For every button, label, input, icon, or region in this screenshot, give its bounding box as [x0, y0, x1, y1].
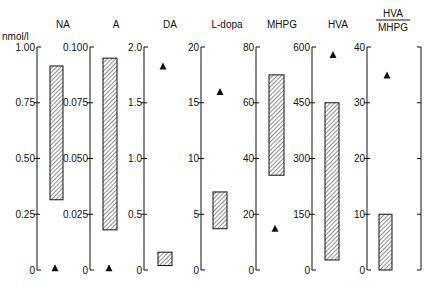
triangle-marker [272, 225, 279, 232]
panel-hva-mhpg: 010203040HVAMHPG [354, 8, 421, 276]
range-bar [103, 58, 117, 230]
panel-title: L-dopa [211, 19, 243, 30]
tick-label: 300 [293, 153, 310, 164]
tick-label: 15 [188, 97, 200, 108]
tick-label: 0.50 [16, 153, 36, 164]
tick-label: 0 [248, 265, 254, 276]
tick-label: 5 [193, 209, 199, 220]
range-bar [379, 214, 392, 270]
tick-label: 1.5 [128, 97, 142, 108]
tick-label: 450 [293, 97, 310, 108]
triangle-marker [106, 264, 113, 271]
range-bar [50, 66, 63, 200]
panel-hva: 0150300450600HVA [293, 19, 348, 276]
range-bar [325, 103, 339, 260]
panels: 00.250.500.751.00NA00.0250.0500.0750.100… [16, 8, 421, 276]
panel-title: A [113, 19, 120, 30]
panel-title: DA [163, 19, 177, 30]
tick-label: 2.0 [128, 42, 142, 53]
panel-title-numerator: HVA [383, 8, 403, 19]
panel-l-dopa: 05101520L-dopa [188, 19, 243, 276]
multi-panel-range-chart: nmol/l 00.250.500.751.00NA00.0250.0500.0… [0, 0, 434, 290]
tick-label: 0.100 [63, 42, 88, 53]
tick-label: 0 [136, 265, 142, 276]
tick-label: 60 [243, 97, 255, 108]
panel-a: 00.0250.0500.0750.100A [63, 19, 120, 276]
triangle-marker [52, 264, 59, 271]
tick-label: 20 [354, 153, 366, 164]
panel-da: 00.51.01.52.0DA [128, 19, 177, 276]
tick-label: 80 [243, 42, 255, 53]
tick-label: 40 [354, 42, 366, 53]
tick-label: 150 [293, 209, 310, 220]
tick-label: 20 [188, 42, 200, 53]
panel-mhpg: 020406080MHPG [243, 19, 297, 276]
tick-label: 0.75 [16, 97, 36, 108]
tick-label: 0 [82, 265, 88, 276]
panel-title: MHPG [267, 19, 297, 30]
panel-na: 00.250.500.751.00NA [16, 19, 71, 276]
range-bar [213, 192, 227, 229]
tick-label: 20 [243, 209, 255, 220]
triangle-marker [384, 71, 391, 78]
tick-label: 30 [354, 97, 366, 108]
tick-label: 1.0 [128, 153, 142, 164]
tick-label: 0 [359, 265, 365, 276]
triangle-marker [217, 88, 224, 95]
unit-label: nmol/l [2, 31, 29, 42]
tick-label: 0.25 [16, 209, 36, 220]
panel-title: HVA [328, 19, 348, 30]
tick-label: 10 [188, 153, 200, 164]
range-bar [269, 75, 284, 175]
tick-label: 0.050 [63, 153, 88, 164]
tick-label: 0 [304, 265, 310, 276]
panel-title-denominator: MHPG [378, 22, 408, 33]
tick-label: 0.025 [63, 209, 88, 220]
panel-title: NA [56, 19, 70, 30]
tick-label: 0.075 [63, 97, 88, 108]
tick-label: 0 [193, 265, 199, 276]
tick-label: 40 [243, 153, 255, 164]
tick-label: 600 [293, 42, 310, 53]
triangle-marker [160, 62, 167, 69]
triangle-marker [330, 51, 337, 58]
tick-label: 1.00 [16, 42, 36, 53]
tick-label: 0 [29, 265, 35, 276]
tick-label: 10 [354, 209, 366, 220]
tick-label: 0.5 [128, 209, 142, 220]
range-bar [158, 252, 172, 265]
